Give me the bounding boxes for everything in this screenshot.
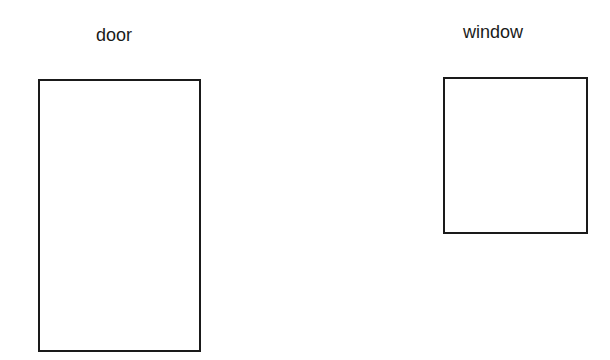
window-label: window [463, 22, 523, 42]
door-rectangle [38, 79, 201, 352]
window-rectangle [443, 77, 588, 234]
door-label: door [96, 25, 132, 45]
